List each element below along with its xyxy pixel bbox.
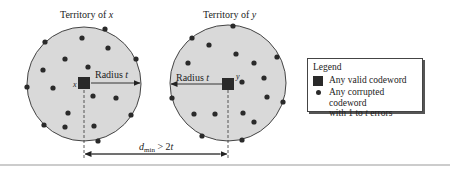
valid-codeword-x [78, 77, 90, 89]
corrupted-codeword-dot [79, 35, 84, 40]
corrupted-codeword-dot [105, 45, 110, 50]
radius-label-x: Radius t [95, 69, 128, 80]
corrupted-codeword-dot [212, 111, 217, 116]
corrupted-codeword-dot [40, 67, 45, 72]
corrupted-codeword-dot [128, 112, 133, 117]
corrupted-codeword-dot [189, 35, 194, 40]
codeword-territory-diagram: x Radius t Territory of x y Radius t Ter… [0, 0, 450, 172]
corrupted-codeword-dot [199, 133, 204, 138]
corrupted-codeword-dot [251, 60, 256, 65]
corrupted-codeword-dot [95, 138, 100, 143]
radius-label-y: Radius t [176, 72, 209, 83]
corrupted-codeword-dot [24, 84, 29, 89]
legend-item-label: Any valid codeword [329, 75, 407, 86]
corrupted-codeword-dot [85, 64, 90, 69]
territory-x-title: Territory of x [60, 9, 114, 20]
corrupted-codeword-dot [62, 124, 67, 129]
corrupted-codeword-dot [133, 56, 138, 61]
corrupted-codeword-dot [240, 110, 245, 115]
codeword-label-x: x [72, 80, 77, 89]
distance-label: dmin > 2t [139, 141, 174, 154]
legend-item-label: Any corrupted codeword with 1 to t error… [329, 87, 422, 119]
corrupted-codeword-dot [102, 26, 107, 31]
corrupted-codeword-dot [206, 42, 211, 47]
legend-item-corrupted-codeword: Any corrupted codeword with 1 to t error… [313, 87, 422, 119]
legend-item-valid-codeword: Any valid codeword [313, 75, 407, 86]
corrupted-codeword-dot [42, 39, 47, 44]
corrupted-codeword-dot [261, 75, 266, 80]
legend-title: Legend [313, 62, 342, 72]
territory-y-title: Territory of y [203, 9, 257, 20]
territory-x: x Radius t Territory of x [24, 9, 141, 160]
square-icon [313, 76, 323, 86]
legend-box: Legend Any valid codeword Any corrupted … [307, 58, 423, 112]
corrupted-codeword-dot [185, 60, 190, 65]
corrupted-codeword-dot [65, 110, 70, 115]
corrupted-codeword-dot [50, 85, 55, 90]
corrupted-codeword-dot [169, 95, 174, 100]
corrupted-codeword-dot [274, 54, 279, 59]
corrupted-codeword-dot [233, 51, 238, 56]
corrupted-codeword-dot [239, 79, 244, 84]
codeword-label-y: y [235, 72, 240, 81]
corrupted-codeword-dot [264, 94, 269, 99]
corrupted-codeword-dot [62, 56, 67, 61]
corrupted-codeword-dot [41, 122, 46, 127]
corrupted-codeword-dot [90, 93, 95, 98]
minimum-distance: dmin > 2t [85, 141, 227, 154]
corrupted-codeword-dot [230, 23, 235, 28]
dot-icon [316, 90, 321, 95]
corrupted-codeword-dot [239, 137, 244, 142]
valid-codeword-y [222, 78, 234, 90]
territory-y: y Radius t Territory of y [169, 9, 286, 160]
corrupted-codeword-dot [280, 99, 285, 104]
corrupted-codeword-dot [91, 123, 96, 128]
corrupted-codeword-dot [113, 95, 118, 100]
corrupted-codeword-dot [191, 111, 196, 116]
corrupted-codeword-dot [251, 119, 256, 124]
